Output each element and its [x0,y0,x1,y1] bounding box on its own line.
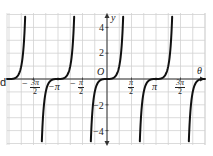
x-axis-label: θ [197,66,202,76]
x-tick-neg-3pi-2: 3π 2 [30,79,40,96]
x-tick-pi: π [152,82,157,92]
origin-label: O [97,67,104,77]
x-tick-neg-pi: −π [48,82,60,92]
y-tick-4: 4 [99,23,104,33]
x-tick-neg-pi-2: π 2 [78,79,84,96]
x-tick-pi-2: π 2 [128,79,134,96]
y-tick-neg2: −2 [93,101,104,111]
x-tick-neg-pi-2-sign: − [70,78,76,89]
x-tick-neg-3pi-2-sign: − [22,78,28,89]
side-text: d [0,77,6,88]
x-tick-3pi-2: 3π 2 [175,79,185,96]
y-axis-label: y [111,13,115,23]
y-tick-2: 2 [99,48,104,58]
y-tick-neg4: −4 [93,127,104,137]
